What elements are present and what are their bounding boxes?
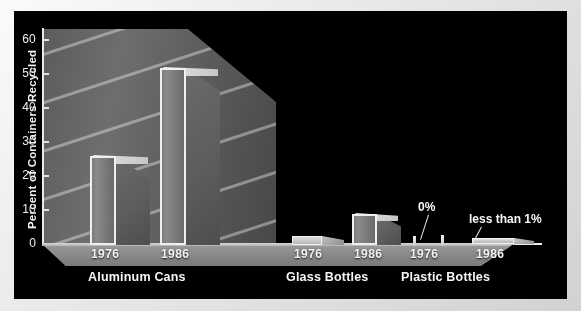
annotation-zero-percent-leader-line — [420, 215, 429, 240]
y-tick-label-0: 0 — [14, 236, 36, 250]
annotation-less-than-one-percent: less than 1% — [469, 212, 542, 226]
y-axis-label: Percent of Containers Recycled — [26, 50, 38, 229]
y-tick-10 — [43, 209, 49, 211]
year-label-aluminum-1976: 1976 — [91, 247, 119, 261]
year-label-glass-1986: 1986 — [354, 247, 382, 261]
bar-aluminum-1976 — [90, 156, 116, 245]
bar-plastic-1986 — [472, 238, 514, 244]
bar-front-face — [90, 156, 116, 245]
group-label-plastic-bottles: Plastic Bottles — [401, 270, 490, 284]
year-label-plastic-1986: 1986 — [476, 247, 504, 261]
chart-panel: 60 50 40 30 20 10 0 Percent of Container… — [14, 11, 567, 299]
group-label-glass-bottles: Glass Bottles — [286, 270, 369, 284]
y-tick-40 — [43, 107, 49, 109]
year-label-glass-1976: 1976 — [294, 247, 322, 261]
y-tick-30 — [43, 141, 49, 143]
bar-front-face — [352, 214, 377, 245]
y-axis-line — [42, 28, 44, 245]
y-tick-20 — [43, 175, 49, 177]
bar-glass-1986 — [352, 214, 377, 245]
bar-aluminum-1986 — [160, 68, 186, 245]
y-tick-50 — [43, 73, 49, 75]
bar-plastic-1976-depth-marker — [441, 235, 444, 246]
bar-plastic-1976 — [413, 236, 416, 246]
bar-glass-1976 — [292, 236, 322, 245]
year-label-plastic-1976: 1976 — [410, 247, 438, 261]
bar-glass-1976-side — [322, 236, 344, 245]
y-tick-label-60: 60 — [14, 32, 36, 46]
bar-front-face — [292, 236, 322, 245]
bar-plastic-1986-side — [514, 238, 534, 244]
bar-side-face — [186, 68, 220, 245]
group-label-aluminum-cans: Aluminum Cans — [88, 270, 186, 284]
chart-screenshot: 60 50 40 30 20 10 0 Percent of Container… — [0, 0, 581, 311]
bar-front-face — [160, 68, 186, 245]
bar-front-face — [472, 238, 514, 244]
year-label-aluminum-1986: 1986 — [161, 247, 189, 261]
annotation-zero-percent: 0% — [418, 200, 435, 214]
y-tick-60 — [43, 39, 49, 41]
